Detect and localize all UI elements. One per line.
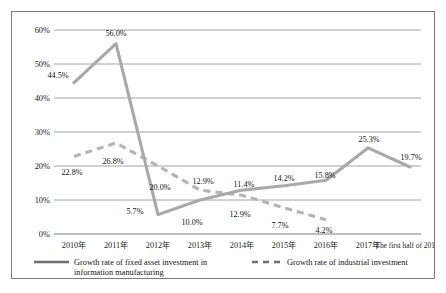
x-tick-label: 2012年 — [146, 240, 170, 250]
data-labels-fixed-asset: 44.5% 56.0% 5.7% 10.0% 12.9% 14.2% 15.8%… — [47, 29, 421, 227]
legend-label-fixed-asset-line1: Growth rate of fixed asset investment in — [74, 258, 208, 267]
x-axis-ticks: 2010年 2011年 2012年 2013年 2014年 2015年 2016… — [62, 240, 434, 250]
data-label: 7.7% — [271, 221, 288, 230]
gridlines — [54, 30, 421, 234]
data-label: 44.5% — [47, 71, 68, 80]
chart-plot-container: 60% 50% 40% 30% 20% 10% 0% 44.5% 56.0% 5… — [12, 12, 434, 278]
y-tick-label: 50% — [35, 60, 50, 69]
x-tick-label: The first half of 2018 — [375, 241, 434, 250]
y-tick-label: 10% — [35, 196, 50, 205]
y-axis-ticks: 60% 50% 40% 30% 20% 10% 0% — [35, 26, 50, 239]
chart-legend: Growth rate of fixed asset investment in… — [34, 258, 408, 277]
y-tick-label: 0% — [39, 230, 50, 239]
data-label: 26.8% — [102, 157, 123, 166]
data-label: 14.2% — [273, 174, 294, 183]
data-label: 10.0% — [181, 218, 202, 227]
data-label: 12.9% — [229, 210, 250, 219]
x-tick-label: 2010年 — [62, 240, 86, 250]
data-label: 4.2% — [315, 226, 332, 235]
data-label: 12.9% — [192, 177, 213, 186]
data-label: 22.8% — [61, 168, 82, 177]
legend-label-fixed-asset-line2: information manufacturing — [74, 268, 164, 277]
x-tick-label: 2014年 — [230, 240, 254, 250]
data-label: 25.3% — [358, 135, 379, 144]
y-tick-label: 40% — [35, 94, 50, 103]
data-label: 19.7% — [400, 153, 421, 162]
data-label: 11.4% — [234, 180, 255, 189]
x-tick-label: 2011年 — [104, 240, 128, 250]
y-tick-label: 60% — [35, 26, 50, 35]
line-chart: 60% 50% 40% 30% 20% 10% 0% 44.5% 56.0% 5… — [12, 12, 434, 278]
legend-label-industrial: Growth rate of industrial investment — [287, 258, 408, 267]
x-tick-label: 2016年 — [314, 240, 338, 250]
y-tick-label: 20% — [35, 162, 50, 171]
data-label: 5.7% — [126, 207, 143, 216]
chart-frame: 60% 50% 40% 30% 20% 10% 0% 44.5% 56.0% 5… — [11, 11, 435, 279]
data-label: 15.8% — [314, 171, 335, 180]
x-tick-label: 2015年 — [272, 240, 296, 250]
x-tick-label: 2013年 — [188, 240, 212, 250]
y-tick-label: 30% — [35, 128, 50, 137]
data-label: 56.0% — [105, 29, 126, 38]
data-label: 20.0% — [149, 183, 170, 192]
